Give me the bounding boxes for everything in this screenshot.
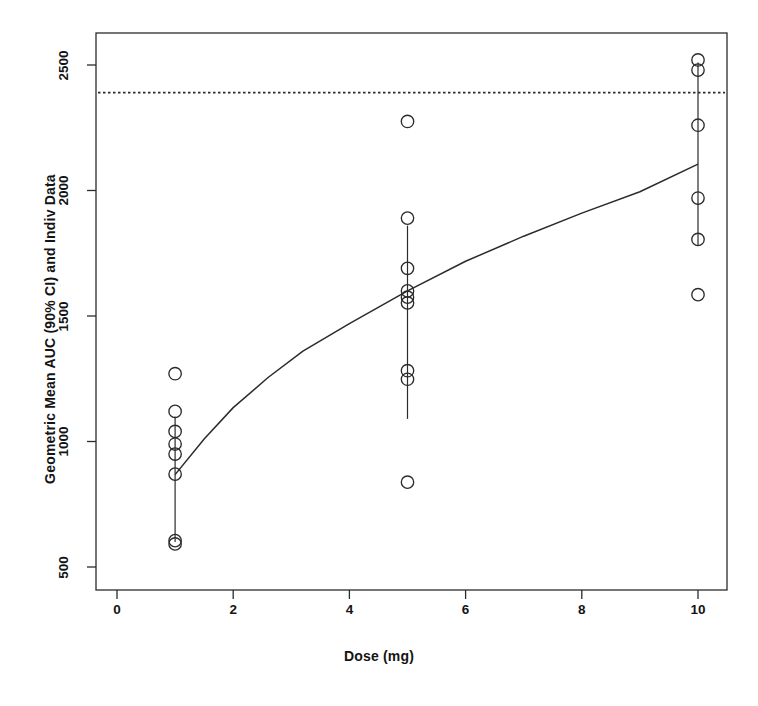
x-tick-label: 0 [97,602,137,617]
y-tick-label: 500 [56,556,71,579]
plot-canvas [0,0,758,706]
x-tick-label: 6 [446,602,486,617]
y-tick-label: 2500 [55,50,70,80]
y-tick-label-wrap: 2500 [40,56,86,74]
scatter-points [169,54,704,550]
y-tick-label-wrap: 2000 [40,182,86,200]
y-tick-label-wrap: 1500 [40,307,86,325]
model-curve [175,164,698,474]
y-tick-label: 2000 [55,175,70,205]
y-tick-label-wrap: 1000 [40,433,86,451]
x-tick-label: 4 [329,602,369,617]
y-tick-label: 1500 [55,301,70,331]
x-axis-title: Dose (mg) [0,648,758,664]
chart-figure: Dose (mg) Geometric Mean AUC (90% CI) an… [0,0,758,706]
errorbar-series [175,62,698,541]
axis-ticks [87,65,698,599]
y-tick-label-wrap: 500 [40,558,86,576]
y-tick-label: 1000 [55,426,70,456]
x-tick-label: 2 [213,602,253,617]
x-tick-label: 8 [562,602,602,617]
x-tick-label: 10 [678,602,718,617]
